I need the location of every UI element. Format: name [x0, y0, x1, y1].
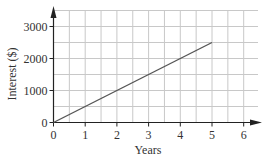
x-tick-label: 6: [241, 128, 247, 142]
y-tick-label: 2000: [24, 52, 48, 66]
x-tick-label: 0: [51, 128, 57, 142]
x-tick-label: 2: [114, 128, 120, 142]
x-axis-title: Years: [135, 143, 162, 157]
tick-labels: 01234560100020003000: [24, 20, 247, 142]
y-tick-label: 0: [42, 116, 48, 130]
x-tick-label: 1: [82, 128, 88, 142]
grid-lines: [54, 10, 259, 123]
x-tick-label: 3: [146, 128, 152, 142]
x-tick-label: 4: [177, 128, 183, 142]
y-tick-label: 3000: [24, 20, 48, 34]
y-tick-label: 1000: [24, 84, 48, 98]
y-axis-arrow-icon: [51, 6, 57, 18]
y-axis-title: Interest ($): [5, 48, 19, 101]
x-axis-arrow-icon: [250, 120, 262, 126]
interest-line-chart: 01234560100020003000 Years Interest ($): [0, 0, 267, 164]
x-tick-label: 5: [209, 128, 215, 142]
